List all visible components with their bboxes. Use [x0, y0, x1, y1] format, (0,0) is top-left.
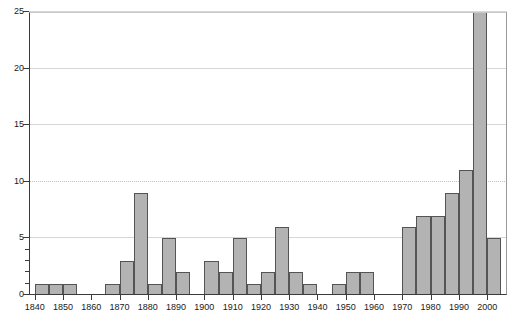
y-tick-15 [23, 124, 29, 125]
bar [134, 193, 148, 295]
bar [332, 284, 346, 295]
x-tick-label-1890: 1890 [166, 302, 186, 312]
plot-area [29, 12, 507, 295]
x-tick-1890 [176, 295, 177, 300]
x-tick-label-1940: 1940 [307, 302, 327, 312]
bar [247, 284, 261, 295]
bar [162, 238, 176, 295]
x-tick-label-1860: 1860 [81, 302, 101, 312]
bar [105, 284, 119, 295]
y-tick-10 [23, 181, 29, 182]
x-tick-1870 [120, 295, 121, 300]
bar [63, 284, 77, 295]
x-tick-label-1870: 1870 [109, 302, 129, 312]
x-tick-1980 [431, 295, 432, 300]
bar [346, 272, 360, 295]
y-minor-tick-4 [25, 249, 29, 250]
y-axis-labels: 0510152025 [0, 12, 24, 295]
bar [487, 238, 501, 295]
x-tick-1940 [317, 295, 318, 300]
x-tick-label-1990: 1990 [449, 302, 469, 312]
x-tick-1970 [402, 295, 403, 300]
y-tick-25 [23, 11, 29, 12]
bar [459, 170, 473, 295]
x-tick-1920 [261, 295, 262, 300]
x-tick-label-1960: 1960 [364, 302, 384, 312]
y-minor-tick-3 [25, 260, 29, 261]
bar [219, 272, 233, 295]
x-tick-label-1970: 1970 [392, 302, 412, 312]
y-tick-20 [23, 68, 29, 69]
bar [275, 227, 289, 295]
y-tick-5 [23, 237, 29, 238]
x-tick-2000 [487, 295, 488, 300]
bar [35, 284, 49, 295]
x-tick-1910 [233, 295, 234, 300]
bar [120, 261, 134, 295]
bar [303, 284, 317, 295]
bar [402, 227, 416, 295]
x-tick-1860 [91, 295, 92, 300]
bar [233, 238, 247, 295]
bar [261, 272, 275, 295]
x-tick-label-2000: 2000 [477, 302, 497, 312]
bars [29, 12, 507, 295]
bar [360, 272, 374, 295]
bar [204, 261, 218, 295]
x-tick-label-1920: 1920 [251, 302, 271, 312]
y-tick-0 [23, 294, 29, 295]
x-tick-label-1880: 1880 [138, 302, 158, 312]
x-tick-1880 [148, 295, 149, 300]
bar [289, 272, 303, 295]
bar [176, 272, 190, 295]
y-minor-tick-2 [25, 271, 29, 272]
y-minor-tick-1 [25, 283, 29, 284]
x-tick-1840 [35, 295, 36, 300]
x-tick-label-1850: 1850 [53, 302, 73, 312]
bar [431, 216, 445, 295]
x-axis-labels: 1840185018601870188018901900191019201930… [29, 302, 507, 318]
x-tick-1930 [289, 295, 290, 300]
bar [148, 284, 162, 295]
x-tick-label-1930: 1930 [279, 302, 299, 312]
x-tick-1900 [204, 295, 205, 300]
x-tick-label-1980: 1980 [421, 302, 441, 312]
x-tick-1960 [374, 295, 375, 300]
bar [416, 216, 430, 295]
x-tick-label-1910: 1910 [223, 302, 243, 312]
x-tick-1990 [459, 295, 460, 300]
bar [473, 12, 487, 295]
x-tick-label-1950: 1950 [336, 302, 356, 312]
bar [49, 284, 63, 295]
bar-chart: 0510152025 18401850186018701880189019001… [0, 0, 515, 323]
x-tick-label-1900: 1900 [194, 302, 214, 312]
bar [445, 193, 459, 295]
x-tick-label-1840: 1840 [25, 302, 45, 312]
x-tick-1950 [346, 295, 347, 300]
x-tick-1850 [63, 295, 64, 300]
